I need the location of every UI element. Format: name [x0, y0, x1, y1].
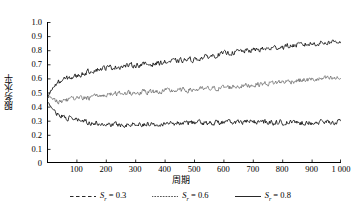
legend-label: Sr = 0.3	[100, 191, 126, 202]
legend-entry[interactable]: Sr = 0.6	[152, 191, 208, 202]
y-tick-label: 0.5	[31, 88, 42, 97]
legend-entry[interactable]: Sr = 0.8	[235, 191, 291, 202]
y-axis-title: 服务水平	[0, 52, 18, 132]
x-tick-label: 300	[129, 165, 142, 174]
chart-legend: Sr = 0.3Sr = 0.6Sr = 0.8	[0, 188, 361, 204]
x-tick-label: 400	[158, 165, 171, 174]
legend-subscript: r	[269, 195, 271, 201]
x-tick-label: 900	[305, 165, 318, 174]
legend-label: Sr = 0.8	[265, 191, 291, 202]
y-tick-label: 0	[38, 159, 42, 168]
dotted-line-swatch	[152, 193, 178, 200]
series-canvas	[47, 22, 341, 163]
series-line-2	[47, 40, 341, 100]
dashed-line-swatch	[70, 193, 96, 200]
y-tick-label: 0.6	[31, 74, 42, 83]
y-tick-label: 0.7	[31, 60, 42, 69]
x-tick-label: 100	[70, 165, 83, 174]
x-tick-label: 700	[246, 165, 259, 174]
legend-label: Sr = 0.6	[182, 191, 208, 202]
x-tick-label: 800	[276, 165, 289, 174]
solid-line-swatch	[235, 193, 261, 200]
y-tick-label: 0.9	[31, 32, 42, 41]
x-axis-title: 周期	[0, 176, 361, 185]
x-tick-label: 600	[217, 165, 230, 174]
plot-area	[47, 22, 341, 163]
y-tick-label: 0.3	[31, 116, 42, 125]
series-line-1	[47, 76, 341, 105]
x-tick-label: 1 000	[331, 165, 350, 174]
y-tick-label: 0.2	[31, 131, 42, 140]
legend-value: = 0.8	[273, 190, 291, 200]
y-tick-label: 1.0	[31, 18, 42, 27]
service-level-chart-figure: 服务水平 00.10.20.30.40.50.60.70.80.91.0 100…	[0, 0, 361, 210]
legend-value: = 0.6	[191, 190, 209, 200]
series-line-0	[47, 101, 341, 128]
x-tick-label: 500	[188, 165, 201, 174]
y-axis-tick-labels: 00.10.20.30.40.50.60.70.80.91.0	[18, 16, 44, 164]
y-tick-label: 0.1	[31, 145, 42, 154]
y-tick-label: 0.8	[31, 46, 42, 55]
legend-subscript: r	[187, 195, 189, 201]
legend-subscript: r	[104, 195, 106, 201]
legend-entry[interactable]: Sr = 0.3	[70, 191, 126, 202]
x-tick-label: 200	[99, 165, 112, 174]
y-tick-label: 0.4	[31, 102, 42, 111]
legend-value: = 0.3	[109, 190, 127, 200]
